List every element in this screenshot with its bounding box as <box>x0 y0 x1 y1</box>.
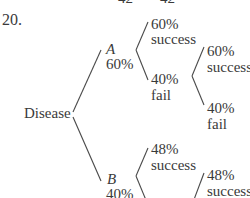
branch-afail-to-success <box>192 47 204 76</box>
bfail-success-probability: 48% <box>207 168 235 183</box>
a-fail-outcome: fail <box>151 88 171 103</box>
branch-a-name: A <box>106 42 115 57</box>
afail-success-probability: 60% <box>207 44 235 59</box>
b-success-probability: 48% <box>151 142 179 157</box>
branch-afail-to-fail <box>192 76 204 105</box>
afail-fail-outcome: fail <box>207 117 227 132</box>
root-label: Disease <box>24 106 71 121</box>
branch-root-to-a <box>73 50 101 112</box>
afail-success-outcome: success <box>207 60 250 75</box>
branch-a-to-fail <box>136 50 148 80</box>
b-success-outcome: success <box>151 158 196 173</box>
top-cut-number-2: 42 <box>160 0 175 6</box>
top-cut-number-1: 42 <box>118 0 133 6</box>
branch-a-probability: 60% <box>106 57 134 72</box>
branch-bfail-to-success <box>192 173 204 198</box>
branch-b-probability: 40% <box>106 187 134 198</box>
a-success-outcome: success <box>151 32 196 47</box>
a-success-probability: 60% <box>151 17 179 32</box>
problem-number: 20. <box>2 12 22 27</box>
branch-b-to-fail <box>136 176 148 198</box>
afail-fail-probability: 40% <box>207 101 235 116</box>
bfail-success-outcome: success <box>207 184 250 198</box>
branch-b-to-success <box>136 148 148 176</box>
branch-b-name: B <box>107 172 116 187</box>
a-fail-probability: 40% <box>151 72 179 87</box>
branch-root-to-b <box>73 117 101 181</box>
branch-a-to-success <box>136 22 148 50</box>
